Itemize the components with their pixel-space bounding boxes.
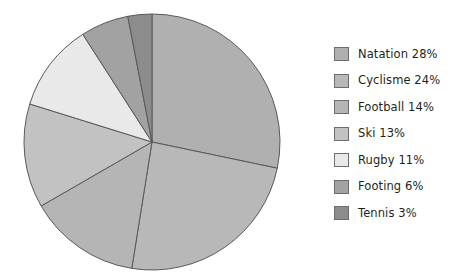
legend-swatch-ski [334,127,349,141]
pie-slice-natation[interactable] [152,14,280,168]
legend-swatch-footing [334,180,349,194]
pie-chart-figure: Natation 28% Cyclisme 24% Football 14% S… [0,0,461,275]
legend-label-footing: Footing 6% [358,181,423,193]
legend-swatch-natation [334,47,349,61]
chart-legend: Natation 28% Cyclisme 24% Football 14% S… [334,41,461,227]
pie-slice-group [24,14,280,270]
pie-chart-plot-area [0,0,310,275]
legend-item-footing[interactable]: Footing 6% [334,174,461,201]
pie-chart-svg [0,0,310,275]
legend-label-football: Football 14% [358,102,434,114]
legend-label-cyclisme: Cyclisme 24% [358,75,440,87]
legend-item-rugby[interactable]: Rugby 11% [334,147,461,174]
legend-item-natation[interactable]: Natation 28% [334,41,461,68]
legend-item-cyclisme[interactable]: Cyclisme 24% [334,68,461,95]
legend-label-rugby: Rugby 11% [358,155,424,167]
legend-item-tennis[interactable]: Tennis 3% [334,200,461,227]
legend-item-ski[interactable]: Ski 13% [334,121,461,148]
legend-label-tennis: Tennis 3% [358,208,417,220]
legend-label-ski: Ski 13% [358,128,405,140]
legend-item-football[interactable]: Football 14% [334,94,461,121]
legend-label-natation: Natation 28% [358,49,438,61]
legend-swatch-cyclisme [334,74,349,88]
legend-swatch-football [334,100,349,114]
legend-swatch-rugby [334,153,349,167]
legend-swatch-tennis [334,206,349,220]
